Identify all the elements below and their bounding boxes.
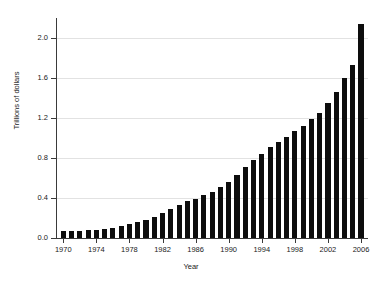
y-tick-label: 0.4 <box>8 194 48 202</box>
bar <box>292 131 297 238</box>
x-tick-mark <box>328 239 329 243</box>
bar <box>160 213 165 238</box>
x-tick-mark <box>63 239 64 243</box>
bar <box>201 195 206 238</box>
bar <box>193 199 198 238</box>
x-axis-title: Year <box>0 262 382 271</box>
bar <box>127 224 132 238</box>
x-tick-label: 2006 <box>341 246 381 254</box>
bar <box>301 126 306 238</box>
bar <box>284 137 289 238</box>
bar <box>86 230 91 238</box>
y-tick-mark <box>51 78 56 79</box>
x-tick-mark <box>163 239 164 243</box>
bar <box>168 209 173 238</box>
x-tick-mark <box>262 239 263 243</box>
x-axis-line <box>56 238 368 239</box>
bar <box>234 175 239 238</box>
bar <box>276 142 281 238</box>
bar <box>218 187 223 238</box>
y-tick-mark <box>51 118 56 119</box>
bar <box>185 201 190 238</box>
bar <box>177 205 182 238</box>
bar <box>309 119 314 238</box>
bar <box>350 65 355 238</box>
bar <box>342 78 347 238</box>
bar <box>77 231 82 238</box>
bar <box>243 167 248 238</box>
x-tick-mark <box>129 239 130 243</box>
bar <box>317 113 322 238</box>
gridline <box>57 78 368 79</box>
x-tick-mark <box>295 239 296 243</box>
bar <box>69 231 74 238</box>
y-axis-title: Trillions of dollars <box>12 41 21 161</box>
bar <box>61 231 66 238</box>
bar <box>135 222 140 238</box>
bar <box>334 92 339 238</box>
y-tick-mark <box>51 238 56 239</box>
bar <box>143 220 148 238</box>
bar <box>102 229 107 238</box>
bar <box>325 103 330 238</box>
bar <box>259 154 264 238</box>
bar <box>119 226 124 238</box>
y-tick-label: 0.0 <box>8 234 48 242</box>
gridline <box>57 38 368 39</box>
bar-chart-figure: 0.00.40.81.21.62.0 197019741978198219861… <box>0 0 382 284</box>
bar <box>94 230 99 238</box>
bar <box>210 192 215 238</box>
x-tick-mark <box>196 239 197 243</box>
x-tick-mark <box>361 239 362 243</box>
bar <box>268 147 273 238</box>
bar <box>226 182 231 238</box>
x-tick-mark <box>96 239 97 243</box>
bar <box>152 217 157 238</box>
plot-area <box>57 18 368 238</box>
x-tick-mark <box>229 239 230 243</box>
y-tick-mark <box>51 198 56 199</box>
bar <box>358 24 363 238</box>
y-tick-mark <box>51 38 56 39</box>
bar <box>110 228 115 238</box>
y-tick-mark <box>51 158 56 159</box>
bar <box>251 160 256 238</box>
